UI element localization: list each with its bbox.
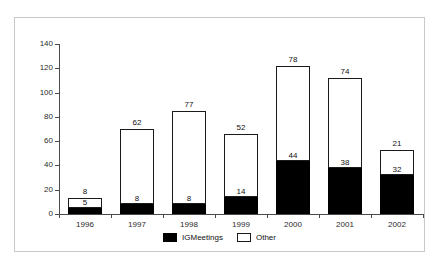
bar-segment-igmeetings[interactable] (224, 197, 258, 214)
bar-value-label-other: 8 (68, 187, 102, 196)
chart-legend: IGMeetingsOther (15, 233, 424, 242)
bar-segment-igmeetings[interactable] (380, 175, 414, 214)
legend-swatch-icon (163, 233, 177, 242)
bar-segment-igmeetings[interactable] (172, 204, 206, 214)
y-axis-line (59, 44, 60, 214)
bar-value-label-igmeetings: 38 (328, 158, 362, 167)
y-axis-tick (55, 117, 59, 118)
x-axis-tick (111, 214, 112, 218)
y-axis-tick (55, 93, 59, 94)
x-axis-tick (371, 214, 372, 218)
bar-value-label-other: 52 (224, 123, 258, 132)
bar-segment-igmeetings[interactable] (68, 208, 102, 214)
y-axis-tick-label: 100 (40, 89, 53, 97)
x-axis-line (59, 214, 423, 215)
bar-group[interactable]: 877 (172, 111, 206, 214)
x-axis-tick (319, 214, 320, 218)
legend-label: Other (256, 233, 276, 242)
x-axis-label-2002: 2002 (371, 220, 423, 229)
legend-label: IGMeetings (182, 233, 223, 242)
bar-segment-other[interactable] (120, 129, 154, 204)
legend-swatch-icon (237, 233, 251, 242)
bar-value-label-other: 78 (276, 55, 310, 64)
bar-value-label-other: 77 (172, 100, 206, 109)
y-axis-tick-label: 20 (44, 186, 53, 194)
x-axis-tick (423, 214, 424, 218)
bar-segment-igmeetings[interactable] (120, 204, 154, 214)
bar-segment-other[interactable] (172, 111, 206, 205)
legend-item-igmeetings[interactable]: IGMeetings (163, 233, 223, 242)
x-axis-label-2001: 2001 (319, 220, 371, 229)
bar-value-label-igmeetings: 8 (172, 194, 206, 203)
y-axis-tick-label: 0 (49, 210, 53, 218)
plot-area: 020406080100120140 588628771452447838743… (59, 44, 423, 214)
legend-item-other[interactable]: Other (237, 233, 276, 242)
x-axis-label-1996: 1996 (59, 220, 111, 229)
bar-group[interactable]: 4478 (276, 66, 310, 214)
y-axis-tick-label: 40 (44, 161, 53, 169)
bar-value-label-igmeetings: 32 (380, 165, 414, 174)
x-axis-tick (163, 214, 164, 218)
bar-value-label-other: 62 (120, 118, 154, 127)
x-axis-label-1999: 1999 (215, 220, 267, 229)
bar-group[interactable]: 862 (120, 129, 154, 214)
bar-value-label-other: 21 (380, 139, 414, 148)
x-axis-tick (59, 214, 60, 218)
chart-figure-frame: 020406080100120140 588628771452447838743… (14, 17, 425, 252)
bar-value-label-igmeetings: 14 (224, 187, 258, 196)
bar-group[interactable]: 58 (68, 198, 102, 214)
x-axis-tick (267, 214, 268, 218)
x-axis-tick (215, 214, 216, 218)
y-axis-tick-label: 140 (40, 40, 53, 48)
title-remnant (110, 0, 360, 7)
bar-segment-igmeetings[interactable] (328, 168, 362, 214)
bar-segment-other[interactable] (328, 78, 362, 168)
bar-group[interactable]: 3221 (380, 150, 414, 214)
y-axis-tick-label: 120 (40, 64, 53, 72)
bar-segment-other[interactable] (276, 66, 310, 161)
bar-value-label-igmeetings: 44 (276, 151, 310, 160)
y-axis-tick (55, 68, 59, 69)
y-axis-tick-label: 80 (44, 113, 53, 121)
bar-value-label-other: 74 (328, 67, 362, 76)
y-axis-tick-label: 60 (44, 137, 53, 145)
x-axis-label-1997: 1997 (111, 220, 163, 229)
bar-value-label-igmeetings: 5 (68, 198, 102, 207)
y-axis-tick (55, 141, 59, 142)
bar-value-label-igmeetings: 8 (120, 194, 154, 203)
y-axis-tick (55, 165, 59, 166)
x-axis-label-1998: 1998 (163, 220, 215, 229)
bar-segment-igmeetings[interactable] (276, 161, 310, 214)
x-axis-label-2000: 2000 (267, 220, 319, 229)
bar-group[interactable]: 1452 (224, 134, 258, 214)
y-axis-tick (55, 190, 59, 191)
y-axis-tick (55, 44, 59, 45)
bar-group[interactable]: 3874 (328, 78, 362, 214)
